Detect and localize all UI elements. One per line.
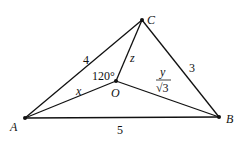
point-a (23, 116, 27, 120)
label-side-ab: 5 (117, 123, 123, 137)
label-side-cb: 3 (189, 61, 195, 75)
segment-oa (25, 81, 116, 118)
segment-oc (116, 20, 142, 81)
label-z: z (129, 51, 135, 65)
label-angle: 120° (92, 69, 115, 83)
triangle-diagram: A B C O 4 3 5 x z y √3 120° (0, 0, 244, 149)
point-b (217, 115, 221, 119)
label-y: y (159, 65, 166, 79)
side-ac (25, 20, 142, 118)
point-c (140, 18, 144, 22)
label-a: A (9, 120, 18, 134)
label-o: O (111, 86, 120, 100)
label-c: C (147, 13, 156, 27)
side-cb (142, 20, 219, 117)
label-side-ac: 4 (83, 53, 89, 67)
label-sqrt3: √3 (156, 81, 169, 95)
label-b: B (226, 112, 234, 126)
label-x: x (75, 84, 82, 98)
side-ab (25, 117, 219, 118)
